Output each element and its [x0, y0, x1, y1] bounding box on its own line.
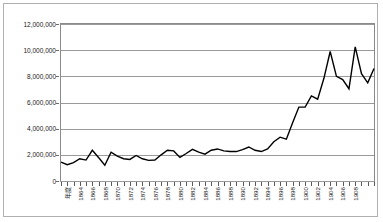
x-tick-label-年度: 年度	[64, 187, 71, 199]
x-tick-label-1888: 1888	[227, 187, 234, 201]
x-tick-label-1904: 1904	[327, 187, 334, 201]
x-tick-mark-24	[211, 182, 212, 186]
chart-outer-frame: 02,000,0004,000,0006,000,0008,000,00010,…	[3, 3, 378, 217]
x-tick-mark-46	[349, 182, 350, 186]
x-tick-mark-1	[67, 182, 68, 186]
x-tick-label-1896: 1896	[277, 187, 284, 201]
x-tick-mark-40	[311, 182, 312, 186]
series-line-chart	[61, 24, 374, 181]
x-tick-mark-35	[280, 182, 281, 186]
y-tick-label-6000000: 6,000,000	[4, 99, 56, 106]
x-tick-label-1890: 1890	[239, 187, 246, 201]
x-tick-label-1880: 1880	[177, 187, 184, 201]
x-tick-mark-33	[268, 182, 269, 186]
x-tick-mark-27	[230, 182, 231, 186]
x-tick-mark-26	[224, 182, 225, 186]
x-tick-mark-10	[124, 182, 125, 186]
x-tick-mark-0	[61, 182, 62, 186]
x-tick-mark-18	[174, 182, 175, 186]
x-tick-mark-8	[111, 182, 112, 186]
y-tick-mark-10000000	[56, 50, 59, 51]
x-tick-label-1872: 1872	[127, 187, 134, 201]
y-tick-mark-12000000	[56, 24, 59, 25]
x-axis: 年度18641866186818701872187418761878188018…	[60, 187, 380, 222]
x-tick-mark-23	[205, 182, 206, 186]
x-tick-mark-38	[299, 182, 300, 186]
x-tick-label-1876: 1876	[152, 187, 159, 201]
x-tick-mark-41	[318, 182, 319, 186]
x-tick-label-1892: 1892	[252, 187, 259, 201]
x-tick-mark-47	[355, 182, 356, 186]
x-tick-mark-25	[218, 182, 219, 186]
x-tick-label-1882: 1882	[189, 187, 196, 201]
y-tick-mark-4000000	[56, 129, 59, 130]
x-tick-mark-22	[199, 182, 200, 186]
x-tick-mark-50	[374, 182, 375, 186]
x-tick-mark-36	[286, 182, 287, 186]
x-tick-mark-7	[105, 182, 106, 186]
y-tick-mark-6000000	[56, 103, 59, 104]
x-tick-mark-45	[343, 182, 344, 186]
x-tick-mark-30	[249, 182, 250, 186]
y-tick-label-8000000: 8,000,000	[4, 73, 56, 80]
x-tick-label-1874: 1874	[139, 187, 146, 201]
y-tick-label-0: 0	[4, 178, 56, 185]
y-axis: 02,000,0004,000,0006,000,0008,000,00010,…	[4, 4, 56, 204]
x-tick-mark-6	[99, 182, 100, 186]
x-tick-mark-21	[192, 182, 193, 186]
x-tick-mark-31	[255, 182, 256, 186]
x-tick-mark-37	[293, 182, 294, 186]
x-tick-mark-9	[117, 182, 118, 186]
x-tick-mark-16	[161, 182, 162, 186]
x-tick-label-1902: 1902	[314, 187, 321, 201]
y-tick-mark-8000000	[56, 76, 59, 77]
x-tick-mark-20	[186, 182, 187, 186]
x-tick-mark-11	[130, 182, 131, 186]
x-tick-mark-32	[261, 182, 262, 186]
x-tick-mark-19	[180, 182, 181, 186]
x-tick-label-1908: 1908	[352, 187, 359, 201]
x-tick-label-1864: 1864	[77, 187, 84, 201]
y-tick-label-10000000: 10,000,000	[4, 47, 56, 54]
y-tick-label-12000000: 12,000,000	[4, 21, 56, 28]
x-tick-mark-4	[86, 182, 87, 186]
x-tick-mark-3	[80, 182, 81, 186]
x-tick-mark-42	[324, 182, 325, 186]
y-tick-mark-2000000	[56, 155, 59, 156]
y-tick-label-4000000: 4,000,000	[4, 125, 56, 132]
x-tick-label-1866: 1866	[89, 187, 96, 201]
x-tick-mark-39	[305, 182, 306, 186]
x-tick-mark-49	[368, 182, 369, 186]
x-tick-mark-14	[149, 182, 150, 186]
x-tick-mark-29	[243, 182, 244, 186]
x-tick-label-1868: 1868	[102, 187, 109, 201]
x-tick-label-1878: 1878	[164, 187, 171, 201]
x-tick-mark-44	[336, 182, 337, 186]
x-tick-mark-43	[330, 182, 331, 186]
x-tick-mark-13	[142, 182, 143, 186]
x-tick-label-1870: 1870	[114, 187, 121, 201]
x-tick-label-1900: 1900	[302, 187, 309, 201]
x-tick-label-1894: 1894	[264, 187, 271, 201]
x-tick-mark-12	[136, 182, 137, 186]
series-polyline-series1	[61, 47, 374, 165]
x-tick-mark-34	[274, 182, 275, 186]
x-tick-mark-48	[361, 182, 362, 186]
x-tick-mark-15	[155, 182, 156, 186]
y-tick-label-2000000: 2,000,000	[4, 151, 56, 158]
x-tick-label-1906: 1906	[339, 187, 346, 201]
x-tick-label-1886: 1886	[214, 187, 221, 201]
x-tick-mark-5	[92, 182, 93, 186]
x-tick-mark-2	[74, 182, 75, 186]
plot-area	[60, 23, 375, 182]
x-tick-label-1898: 1898	[289, 187, 296, 201]
chart-figure: 02,000,0004,000,0006,000,0008,000,00010,…	[0, 0, 383, 222]
x-tick-mark-28	[236, 182, 237, 186]
x-tick-mark-17	[167, 182, 168, 186]
x-tick-label-1884: 1884	[202, 187, 209, 201]
y-tick-mark-0	[56, 181, 59, 182]
